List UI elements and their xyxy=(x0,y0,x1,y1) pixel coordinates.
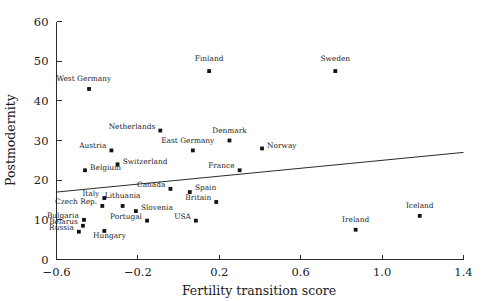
data-point-czech-rep xyxy=(100,204,104,208)
y-tick-label-50: 50 xyxy=(34,54,49,68)
data-label-lithuania: Lithuania xyxy=(105,191,141,200)
data-point-ireland xyxy=(354,228,358,232)
plot-area: 0102030405060−0.6−0.20.20.61.01.4 West G… xyxy=(0,0,483,301)
data-point-labels: West GermanyFinlandSwedenNetherlandsDenm… xyxy=(47,54,434,240)
data-point-sweden xyxy=(333,69,337,73)
x-tick-label-0.2: 0.2 xyxy=(210,265,228,279)
y-tick-label-40: 40 xyxy=(34,94,49,108)
data-label-slovenia: Slovenia xyxy=(141,203,174,212)
y-axis-title: Postmodernity xyxy=(3,93,18,186)
data-point-finland xyxy=(207,69,211,73)
data-label-east-germany: East Germany xyxy=(161,136,215,145)
data-point-netherlands xyxy=(158,129,162,133)
scatter-chart: 0102030405060−0.6−0.20.20.61.01.4 West G… xyxy=(0,0,483,301)
data-label-france: France xyxy=(208,161,234,170)
data-point-belgium xyxy=(83,168,87,172)
data-point-denmark xyxy=(228,139,232,143)
data-label-west-germany: West Germany xyxy=(57,74,112,83)
data-point-france xyxy=(238,168,242,172)
y-tick-label-30: 30 xyxy=(34,134,49,148)
axis-spines xyxy=(57,22,464,260)
data-point-bulgaria xyxy=(82,218,86,222)
x-tick-label--0.6: −0.6 xyxy=(43,265,71,279)
data-point-lithuania xyxy=(121,204,125,208)
data-label-norway: Norway xyxy=(267,141,297,150)
x-tick-label-1.4: 1.4 xyxy=(454,265,472,279)
axis-ticks xyxy=(57,22,464,260)
data-label-russia: Russia xyxy=(49,223,74,232)
data-label-ireland: Ireland xyxy=(342,215,369,224)
data-label-belgium: Belgium xyxy=(90,163,121,172)
data-point-usa xyxy=(194,219,198,223)
data-label-canada: Canada xyxy=(137,180,166,189)
x-axis-title: Fertility transition score xyxy=(182,283,336,298)
data-point-west-germany xyxy=(87,87,91,91)
data-label-spain: Spain xyxy=(195,183,217,192)
data-point-russia xyxy=(77,230,81,234)
data-label-netherlands: Netherlands xyxy=(109,122,156,131)
axes xyxy=(57,22,464,260)
x-tick-label-0.6: 0.6 xyxy=(292,265,310,279)
data-points xyxy=(77,69,422,233)
data-point-east-germany xyxy=(191,149,195,153)
data-label-czech-rep: Czech Rep. xyxy=(55,197,97,206)
data-point-austria xyxy=(110,149,114,153)
x-tick-label--0.2: −0.2 xyxy=(124,265,152,279)
data-label-austria: Austria xyxy=(78,141,107,150)
data-point-belarus xyxy=(81,224,85,228)
data-label-sweden: Sweden xyxy=(320,54,350,63)
data-label-hungary: Hungary xyxy=(93,231,127,240)
data-label-switzerland: Switzerland xyxy=(123,157,168,166)
y-tick-label-20: 20 xyxy=(34,173,49,187)
data-label-britain: Britain xyxy=(185,193,211,202)
data-label-portugal: Portugal xyxy=(110,212,143,221)
data-label-denmark: Denmark xyxy=(212,126,247,135)
data-point-iceland xyxy=(418,214,422,218)
data-point-britain xyxy=(214,200,218,204)
data-label-finland: Finland xyxy=(195,54,224,63)
y-tick-label-60: 60 xyxy=(34,15,49,29)
data-point-canada xyxy=(169,187,173,191)
data-label-iceland: Iceland xyxy=(406,201,434,210)
x-tick-label-1.0: 1.0 xyxy=(373,265,391,279)
data-label-usa: USA xyxy=(174,212,191,221)
data-point-portugal xyxy=(145,219,149,223)
data-point-norway xyxy=(260,147,264,151)
